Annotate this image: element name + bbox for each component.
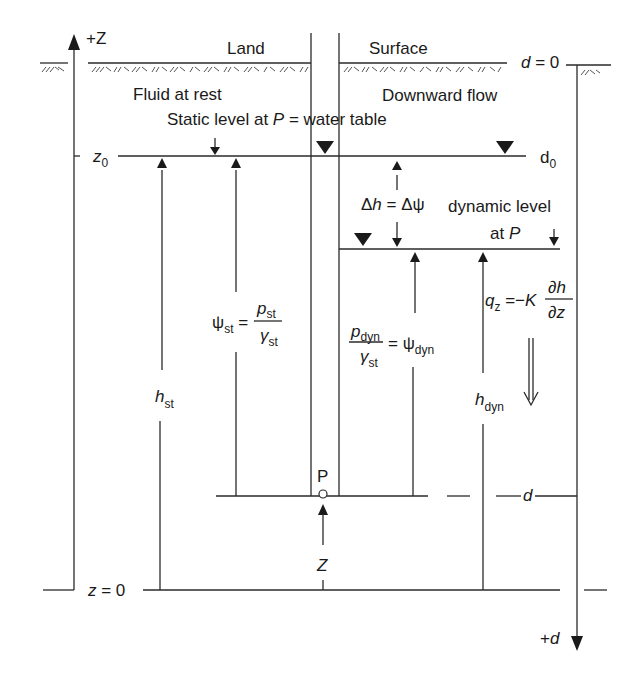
psi-dyn-arrow-icon (410, 252, 420, 262)
point-p-marker-icon (319, 490, 327, 498)
d-zero-label: d = 0 (521, 53, 559, 72)
z-dimension: Z (316, 504, 328, 590)
d-axis-label: +d (540, 629, 560, 648)
qz-numerator: ∂h (548, 278, 566, 297)
psi-st-numerator: pst (256, 299, 276, 321)
z-axis-label: +Z (86, 29, 106, 48)
h-dyn-arrow-icon (478, 252, 488, 262)
delta-label: Δh = Δψ (361, 195, 425, 214)
psi-st-equation: ψst = (212, 313, 248, 336)
static-level-arrow-icon (210, 147, 220, 155)
dynamic-level-label-2: at P (490, 224, 521, 243)
pdyn-denominator: γst (360, 347, 379, 370)
psi-st-dimension: ψst = pst γst (212, 158, 282, 496)
h-st-label: hst (155, 387, 174, 411)
static-level-line: z0 d0 (74, 138, 556, 171)
well-casing (311, 33, 339, 496)
z-axis: +Z (68, 29, 106, 590)
dynamic-level-arrow-icon (549, 237, 559, 246)
hydraulic-head-diagram: +Z Land Surface d = 0 +d Fluid at rest D… (0, 0, 642, 673)
psi-dyn-dimension: pdyn γst = ψdyn (349, 252, 434, 496)
h-st-dimension: hst (155, 158, 174, 590)
water-table-triangle-icon (496, 141, 514, 154)
dynamic-level-line: Δh = Δψ dynamic level at P (339, 161, 560, 249)
z-axis-arrow-icon (68, 34, 80, 50)
delta-arrow-up-icon (392, 161, 402, 170)
psi-st-arrow-icon (231, 158, 241, 168)
h-dyn-label: hdyn (475, 390, 504, 414)
qz-denominator: ∂z (548, 303, 565, 322)
darcy-flux-equation: qz =−K ∂h ∂z (485, 278, 573, 405)
psi-st-denominator: γst (260, 326, 279, 349)
water-table-triangle-icon (316, 141, 334, 154)
d-axis-arrow-icon (571, 636, 583, 651)
land-surface-left: Land (88, 39, 311, 72)
point-p-label: P (317, 467, 328, 486)
d-axis: +d (540, 65, 611, 651)
ground-symbol-left (40, 63, 68, 72)
z-arrow-icon (318, 504, 328, 515)
fluid-at-rest-label: Fluid at rest (133, 85, 222, 104)
d-label: d (523, 486, 533, 505)
qz-label: qz =−K (485, 291, 537, 314)
downward-flow-label: Downward flow (382, 86, 498, 105)
dynamic-level-label-1: dynamic level (448, 197, 551, 216)
z0-label: z0 (92, 147, 109, 170)
z-zero-label: z = 0 (87, 581, 125, 600)
d0-label: d0 (540, 148, 556, 171)
z-label: Z (316, 556, 328, 575)
psi-dyn-label: = ψdyn (388, 334, 434, 357)
static-level-label: Static level at P = water table (167, 110, 387, 129)
delta-arrow-down-icon (392, 238, 402, 247)
pdyn-numerator: pdyn (350, 322, 380, 344)
h-st-arrow-icon (157, 158, 167, 168)
land-surface-right: Surface (339, 39, 507, 72)
point-p-level: d P (216, 467, 577, 505)
dynamic-level-triangle-icon (354, 233, 372, 246)
datum-line: z = 0 (43, 581, 607, 600)
surface-label: Surface (369, 39, 428, 58)
land-label: Land (227, 39, 265, 58)
